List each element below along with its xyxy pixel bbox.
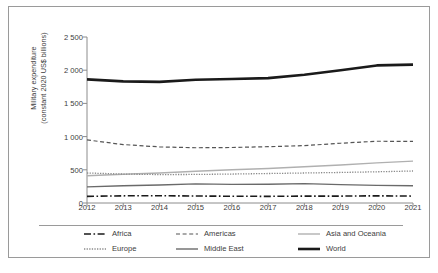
legend-label: Americas [204, 229, 236, 238]
legend-swatch-europe [83, 244, 107, 254]
legend-label: Asia and Oceania [326, 229, 386, 238]
legend-label: Africa [112, 229, 131, 238]
legend-item-europe[interactable]: Europe [39, 241, 175, 256]
legend-swatch-asia-and-oceania [297, 229, 321, 239]
series-line-africa [87, 196, 413, 197]
legend-swatch-americas [175, 229, 199, 239]
series-line-asia-and-oceania [87, 161, 413, 176]
series-line-world [87, 65, 413, 82]
legend-item-middle-east[interactable]: Middle East [175, 241, 297, 256]
figure-root: Military expenditure (constant 2020 US$ … [0, 0, 438, 273]
legend-item-africa[interactable]: Africa [39, 226, 175, 241]
line-chart-canvas [9, 7, 431, 259]
legend-swatch-africa [83, 229, 107, 239]
legend-swatch-middle-east [175, 244, 199, 254]
legend-row: EuropeMiddle EastWorld [39, 241, 403, 256]
figure-border: Military expenditure (constant 2020 US$ … [8, 6, 430, 258]
legend-item-asia-and-oceania[interactable]: Asia and Oceania [297, 226, 403, 241]
legend-label: Europe [112, 244, 137, 253]
series-line-middle-east [87, 184, 413, 187]
legend-label: Middle East [204, 244, 244, 253]
chart-legend: AfricaAmericasAsia and OceaniaEuropeMidd… [39, 226, 403, 260]
legend-label: World [326, 244, 346, 253]
legend-item-world[interactable]: World [297, 241, 403, 256]
series-line-americas [87, 140, 413, 148]
legend-swatch-world [297, 244, 321, 254]
legend-item-americas[interactable]: Americas [175, 226, 297, 241]
plot-area: Military expenditure (constant 2020 US$ … [9, 7, 431, 259]
legend-row: AfricaAmericasAsia and Oceania [39, 226, 403, 241]
